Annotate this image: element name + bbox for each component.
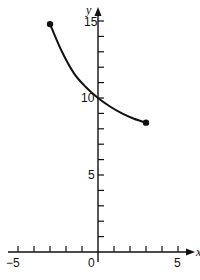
left-endpoint-dot <box>47 21 53 27</box>
x-axis: −5 0 5 x <box>6 245 200 270</box>
x-tick-label-5: 5 <box>174 256 181 270</box>
y-tick-label-5: 5 <box>88 168 95 182</box>
function-plot: −5 0 5 x 5 10 15 y <box>0 0 200 280</box>
x-axis-arrow-icon <box>186 249 195 256</box>
y-axis-label: y <box>85 3 92 17</box>
y-axis: 5 10 15 y <box>81 3 104 262</box>
x-tick-label-neg5: −5 <box>6 256 20 270</box>
x-axis-label: x <box>195 245 200 259</box>
x-tick-label-0: 0 <box>88 256 95 270</box>
y-tick-label-15: 15 <box>84 15 98 29</box>
right-endpoint-dot <box>143 119 149 125</box>
